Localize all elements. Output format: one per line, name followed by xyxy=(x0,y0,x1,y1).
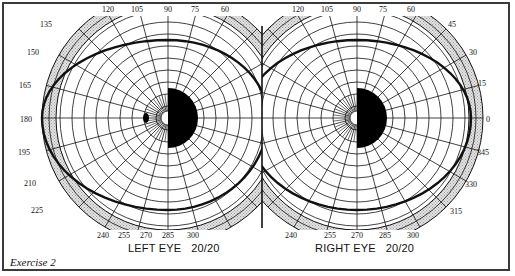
degree-label: 195 xyxy=(18,148,30,157)
degree-label: 90 xyxy=(353,5,361,14)
degree-label: 120 xyxy=(102,5,114,14)
left-eye-field xyxy=(42,0,294,244)
left-eye-label: LEFT EYE 20/20 xyxy=(128,242,220,254)
visual-field-charts: 1351501651801952102252402552702853001201… xyxy=(0,0,515,276)
degree-label: 240 xyxy=(285,231,297,240)
degree-label: 75 xyxy=(191,5,199,14)
degree-label: 45 xyxy=(448,20,456,29)
scotoma xyxy=(143,113,149,123)
degree-label: 300 xyxy=(187,231,199,240)
degree-label: 240 xyxy=(97,231,109,240)
right-eye-field xyxy=(231,0,483,244)
degree-label: 120 xyxy=(292,5,304,14)
degree-label: 255 xyxy=(324,231,336,240)
degree-label: 105 xyxy=(321,5,333,14)
degree-label: 345 xyxy=(477,148,489,157)
degree-label: 0 xyxy=(486,115,490,124)
degree-label: 60 xyxy=(221,5,229,14)
degree-label: 270 xyxy=(140,231,152,240)
degree-label: 165 xyxy=(19,81,31,90)
degree-label: 210 xyxy=(24,179,36,188)
degree-label: 330 xyxy=(465,180,477,189)
degree-label: 30 xyxy=(469,48,477,57)
degree-label: 180 xyxy=(20,115,32,124)
degree-label: 315 xyxy=(450,207,462,216)
degree-label: 285 xyxy=(379,231,391,240)
degree-label: 300 xyxy=(407,231,419,240)
degree-label: 225 xyxy=(31,206,43,215)
degree-label: 105 xyxy=(131,5,143,14)
exercise-caption: Exercise 2 xyxy=(10,256,56,268)
degree-label: 255 xyxy=(118,231,130,240)
degree-label: 75 xyxy=(379,5,387,14)
degree-label: 90 xyxy=(164,5,172,14)
right-eye-label: RIGHT EYE 20/20 xyxy=(315,242,414,254)
degree-label: 285 xyxy=(162,231,174,240)
degree-label: 270 xyxy=(351,231,363,240)
degree-label: 135 xyxy=(40,20,52,29)
degree-label: 60 xyxy=(407,5,415,14)
degree-label: 15 xyxy=(478,79,486,88)
degree-label: 150 xyxy=(27,48,39,57)
